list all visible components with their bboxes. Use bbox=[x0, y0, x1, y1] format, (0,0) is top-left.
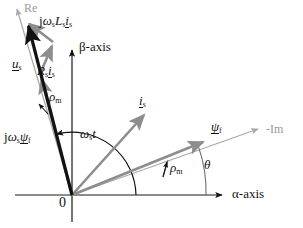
jws-psi-f-label: jωsψf bbox=[4, 130, 31, 144]
theta-label: θ bbox=[204, 158, 210, 171]
rs-is-label: Rsis bbox=[37, 64, 55, 78]
rho-m-left-label: ρm bbox=[49, 90, 62, 103]
minus-im-axis-label: -Im bbox=[266, 123, 283, 135]
omega-s-t-label: ωst bbox=[80, 127, 96, 140]
psi-f-vector bbox=[72, 142, 203, 195]
origin-label: 0 bbox=[59, 196, 66, 210]
i-s-label: is bbox=[139, 94, 146, 108]
jws-ls-is-label: jωsLsis bbox=[39, 14, 72, 28]
psi-f-label: ψf bbox=[211, 120, 222, 134]
re-axis-label: Re bbox=[24, 2, 37, 14]
phasor-diagram: Re -Im α-axis β-axis us jωsLsis Rsis jωs… bbox=[0, 0, 303, 228]
rho-m-right-arrow bbox=[163, 162, 167, 177]
beta-axis-label: β-axis bbox=[79, 40, 111, 53]
rho-m-right-label: ρm bbox=[170, 161, 183, 174]
u-s-label: us bbox=[12, 57, 22, 71]
alpha-axis-label: α-axis bbox=[232, 187, 264, 200]
